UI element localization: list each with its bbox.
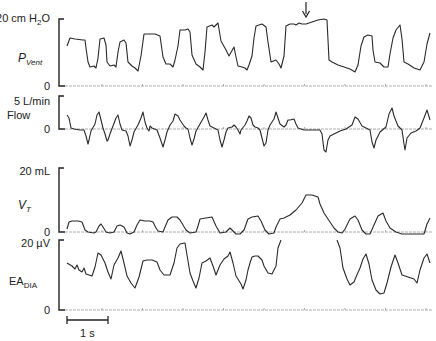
panel-axes — [59, 19, 65, 310]
eadia-top-label: 20 µV — [21, 238, 50, 249]
flow-trace — [67, 108, 430, 152]
eadia-zero-label: 0 — [44, 305, 50, 316]
eadia-baseline — [65, 308, 432, 310]
pvent-baseline — [65, 84, 432, 86]
signal-traces — [67, 19, 430, 294]
flow-zero-label: 0 — [44, 124, 50, 135]
pvent-trace — [67, 19, 430, 72]
flow-axis-label: Flow — [7, 110, 30, 121]
flow-axis — [59, 96, 65, 129]
flow-top-label: 5 L/min — [14, 96, 50, 107]
vt-top-label: 20 mL — [19, 166, 50, 177]
eadia-trace — [67, 240, 281, 289]
eadia-axis — [59, 240, 65, 310]
figure: 20 cm H2O PVent 0 5 L/min Flow 0 20 mL V… — [0, 0, 436, 341]
eadia-trace2 — [337, 240, 430, 294]
time-scale-label: 1 s — [80, 328, 95, 339]
vt-trace — [67, 195, 430, 234]
eadia-axis-label: EADIA — [9, 276, 37, 287]
pvent-axis-label: PVent — [18, 52, 42, 64]
flow-baseline — [65, 127, 432, 129]
time-scale-bar — [67, 316, 108, 324]
pvent-top-label: 20 cm H2O — [0, 13, 50, 24]
vt-baseline — [65, 230, 432, 232]
chart-canvas — [0, 0, 436, 341]
vt-axis — [59, 168, 65, 232]
vt-axis-label: VT — [18, 199, 31, 211]
pvent-axis — [59, 19, 65, 86]
pvent-zero-label: 0 — [44, 81, 50, 92]
arrow-icon — [303, 2, 310, 17]
